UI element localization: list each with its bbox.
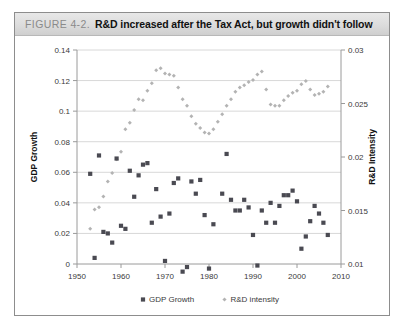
gdp-growth-point: [308, 219, 312, 223]
rd-intensity-point: [128, 121, 132, 125]
gdp-growth-point: [145, 161, 149, 165]
axis-titles-group: GDP GrowthR&D Intensity: [29, 129, 377, 185]
gdp-growth-point: [163, 259, 167, 263]
gdp-growth-point: [203, 213, 207, 217]
rd-intensity-point: [264, 88, 268, 92]
gdp-growth-point: [238, 208, 242, 212]
series-gdp-growth: [88, 152, 330, 274]
y-ticklabel-left: 0.02: [54, 229, 70, 238]
gdp-growth-point: [176, 176, 180, 180]
rd-intensity-point: [308, 88, 312, 92]
gdp-growth-point: [181, 270, 185, 274]
gdp-growth-point: [273, 221, 277, 225]
rd-intensity-point: [295, 89, 299, 93]
rd-intensity-point: [154, 68, 158, 72]
rd-intensity-point: [286, 94, 290, 98]
y-axis-title-right: R&D Intensity: [367, 129, 377, 185]
gdp-growth-point: [264, 221, 268, 225]
rd-intensity-point: [185, 104, 189, 108]
figure-container: FIGURE 4-2. R&D increased after the Tax …: [14, 12, 390, 316]
x-ticklabel: 1990: [244, 272, 262, 281]
rd-intensity-point: [321, 90, 325, 94]
gdp-growth-point: [185, 265, 189, 269]
rd-intensity-point: [299, 82, 303, 86]
gdp-growth-point: [119, 224, 123, 228]
rd-intensity-point: [242, 83, 246, 87]
rd-intensity-point: [110, 171, 114, 175]
rd-intensity-point: [194, 122, 198, 126]
gdp-growth-point: [291, 189, 295, 193]
x-ticklabel: 1950: [68, 272, 86, 281]
y-ticklabel-left: 0: [66, 260, 71, 269]
rd-intensity-point: [123, 127, 127, 131]
gdp-growth-point: [233, 208, 237, 212]
x-ticklabel: 2000: [288, 272, 306, 281]
gdp-growth-point: [101, 230, 105, 234]
rd-intensity-point: [273, 104, 277, 108]
rd-intensity-point: [88, 227, 92, 231]
rd-intensity-point: [106, 180, 110, 184]
rd-intensity-point: [159, 66, 163, 70]
gdp-growth-point: [225, 152, 229, 156]
scatter-chart: 00.020.040.060.080.10.120.140.010.0150.0…: [15, 36, 389, 316]
rd-intensity-point: [255, 73, 259, 77]
gdp-growth-point: [251, 233, 255, 237]
gdp-growth-point: [304, 234, 308, 238]
x-ticklabel: 1960: [112, 272, 130, 281]
rd-intensity-point: [326, 84, 330, 88]
legend-marker-diamond: [222, 297, 226, 301]
gdp-growth-point: [93, 256, 97, 260]
rd-intensity-point: [172, 74, 176, 78]
gdp-growth-point: [115, 156, 119, 160]
chart-plot-area: 00.020.040.060.080.10.120.140.010.0150.0…: [15, 36, 389, 316]
rd-intensity-point: [189, 114, 193, 118]
rd-intensity-point: [317, 92, 321, 96]
chart-legend: GDP GrowthR&D intensity: [141, 295, 279, 304]
rd-intensity-point: [277, 104, 281, 108]
rd-intensity-point: [181, 97, 185, 101]
gdp-growth-point: [154, 187, 158, 191]
gdp-growth-point: [299, 247, 303, 251]
gdp-growth-point: [123, 227, 127, 231]
rd-intensity-point: [251, 78, 255, 82]
y-ticklabel-right: 0.01: [348, 260, 364, 269]
rd-intensity-point: [97, 205, 101, 209]
y-ticklabel-left: 0.08: [54, 138, 70, 147]
x-ticklabel: 1970: [156, 272, 174, 281]
y-axis-title-left: GDP Growth: [29, 132, 39, 182]
y-ticklabel-left: 0.14: [54, 46, 70, 55]
gdp-growth-point: [207, 266, 211, 270]
rd-intensity-point: [93, 207, 97, 211]
rd-intensity-point: [304, 79, 308, 83]
gdp-growth-point: [211, 222, 215, 226]
figure-title-bar: FIGURE 4-2. R&D increased after the Tax …: [15, 13, 389, 36]
rd-intensity-point: [225, 104, 229, 108]
y-ticklabel-left: 0.1: [59, 107, 71, 116]
rd-intensity-point: [238, 85, 242, 89]
rd-intensity-point: [269, 103, 273, 107]
rd-intensity-point: [229, 97, 233, 101]
rd-intensity-point: [203, 130, 207, 134]
rd-intensity-point: [233, 90, 237, 94]
gdp-growth-point: [326, 233, 330, 237]
gdp-growth-point: [313, 204, 317, 208]
x-ticklabel: 2010: [332, 272, 350, 281]
gdp-growth-point: [286, 193, 290, 197]
y-ticklabel-right: 0.025: [348, 100, 369, 109]
gdp-growth-point: [321, 221, 325, 225]
rd-intensity-point: [207, 131, 211, 135]
gdp-growth-point: [110, 241, 114, 245]
gdp-growth-point: [260, 208, 264, 212]
gdp-growth-point: [198, 178, 202, 182]
rd-intensity-point: [220, 112, 224, 116]
legend-label: R&D intensity: [231, 295, 279, 304]
gdp-growth-point: [317, 211, 321, 215]
gdp-growth-point: [150, 221, 154, 225]
y-ticklabel-right: 0.03: [348, 46, 364, 55]
gdp-growth-point: [128, 169, 132, 173]
gdp-growth-point: [255, 263, 259, 267]
gdp-growth-point: [97, 153, 101, 157]
rd-intensity-point: [313, 93, 317, 97]
rd-intensity-point: [167, 73, 171, 77]
rd-intensity-point: [291, 91, 295, 95]
